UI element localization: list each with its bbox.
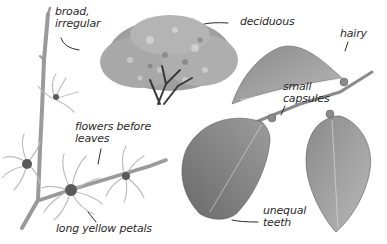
label-flowers-line2: leaves <box>75 133 151 145</box>
label-flowers: flowers before leaves <box>75 121 151 145</box>
label-petals: long yellow petals <box>56 223 152 235</box>
label-teeth-line2: teeth <box>263 217 306 229</box>
label-form-line2: irregular <box>55 18 100 30</box>
label-deciduous: deciduous <box>240 16 294 28</box>
label-capsules-line2: capsules <box>283 93 329 105</box>
label-teeth: unequal teeth <box>263 205 306 229</box>
leader-teeth <box>232 220 258 222</box>
label-capsules: small capsules <box>283 81 329 105</box>
illustration-artwork <box>0 0 387 244</box>
leader-hairy <box>345 42 348 51</box>
leader-flowers <box>98 149 101 164</box>
label-hairy: hairy <box>340 28 367 40</box>
label-form: broad, irregular <box>55 6 100 30</box>
shrub-form-drawing <box>100 15 238 104</box>
leader-form <box>61 38 79 50</box>
leader-deciduous <box>204 23 228 24</box>
witch-hazel-illustration: broad, irregular deciduous hairy small c… <box>0 0 387 244</box>
